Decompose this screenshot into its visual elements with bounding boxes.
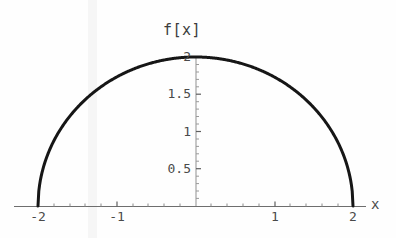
x-tick-label-2: 2 — [333, 210, 373, 223]
y-tick-label-1: 1 — [150, 125, 191, 138]
y-tick-label-0-5: 0.5 — [150, 162, 191, 175]
x-axis-label: x — [371, 197, 379, 211]
y-axis-major-ticks — [196, 57, 201, 169]
plot-canvas — [0, 0, 396, 238]
x-tick-label-minus-1: -1 — [97, 210, 137, 223]
x-tick-label-minus-2: -2 — [18, 210, 58, 223]
plot-figure: f[x] — [0, 0, 396, 238]
x-tick-label-1: 1 — [255, 210, 295, 223]
y-tick-label-2: 2 — [150, 50, 191, 63]
y-tick-label-1-5: 1.5 — [150, 87, 191, 100]
